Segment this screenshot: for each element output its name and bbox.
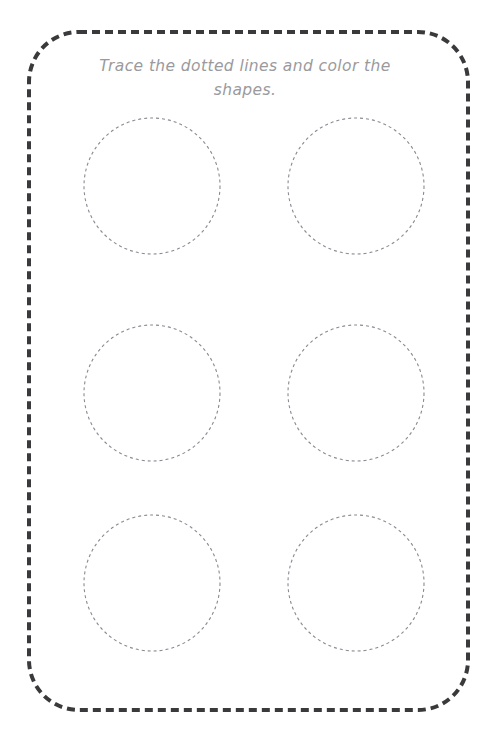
worksheet-drawing-canvas [0, 0, 489, 729]
worksheet-page: Trace the dotted lines and color the sha… [0, 0, 489, 729]
page-background [0, 0, 489, 729]
